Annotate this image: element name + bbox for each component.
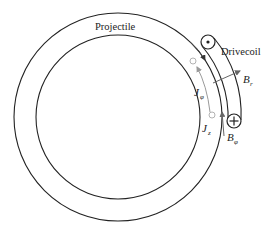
b-phi-subscript: φ [234,138,238,146]
b-r-subscript: r [250,80,253,88]
projectile-inner-circle [36,35,200,199]
j-phi-subscript: φ [200,93,204,101]
projectile-outer-circle [14,13,222,221]
b-r-label: B [243,73,250,85]
dot-icon [206,40,209,43]
j-phi-marker [190,58,196,64]
b-r-arrow-icon [213,71,240,83]
b-phi-label: B [227,131,234,143]
projectile-label: Projectile [95,21,136,32]
drivecoil-projectile-diagram: Projectile Drivecoil J φ J z B r B φ [0,0,278,230]
j-z-marker [209,112,215,118]
drivecoil-inner-edge [202,46,228,122]
j-z-subscript: z [207,129,211,137]
drivecoil-label: Drivecoil [221,46,261,57]
